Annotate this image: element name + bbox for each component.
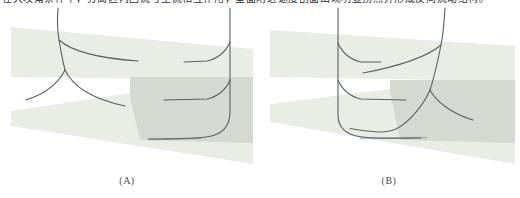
- figure-panel-a: [11, 8, 253, 164]
- figure-canvas: [0, 0, 520, 198]
- upper-band-a: [11, 27, 253, 80]
- step-region-a: [130, 77, 253, 143]
- figure-panel-b: [270, 8, 515, 164]
- panel-label-a: (A): [111, 175, 143, 186]
- panel-label-b: (B): [373, 175, 405, 186]
- figure-page: 在大攻角条件下，分离区内回流与主流相互作用，壁面附近速度剖面出现明显拐点并形成反…: [0, 0, 520, 198]
- upper-band-b: [270, 30, 515, 81]
